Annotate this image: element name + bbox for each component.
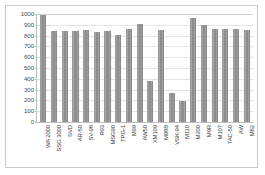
x-axis-label-slot: AR-50 [69,123,80,167]
bar-slot [188,14,199,122]
x-axis-label-slot: AW [230,123,241,167]
chart-frame: 10009008007006005004003002001000 WA 2000… [5,5,258,168]
bar [40,15,46,122]
x-axis-label-slot: M98B [155,123,166,167]
x-axis-label-slot: M110 [176,123,187,167]
x-axis-label-slot: TAC-50 [219,123,230,167]
bar [72,31,78,122]
bar-series [37,14,253,122]
bar-slot [70,14,81,122]
x-axis-label-slot: M82 [240,123,251,167]
x-axis-label-slot: M107 [208,123,219,167]
x-axis-label-slot: R93 [91,123,102,167]
bar [104,31,110,122]
bar-slot [134,14,145,122]
bar-slot [177,14,188,122]
x-axis-label-slot: MSG90 [101,123,112,167]
bar-slot [241,14,252,122]
x-axis-label-slot: WA 2000 [37,123,48,167]
bar-slot [92,14,103,122]
y-axis: 10009008007006005004003002001000 [8,14,34,122]
bar [222,29,228,122]
bar [51,31,57,122]
y-axis-tick-label: 0 [8,119,34,125]
x-axis-label-slot: XM109 [144,123,155,167]
bar [190,18,196,122]
bar [126,29,132,122]
bar [244,30,250,122]
x-axis-label-slot: AW50 [133,123,144,167]
y-axis-tick-label: 1000 [8,11,34,17]
y-axis-tick-label: 200 [8,97,34,103]
bar-slot [102,14,113,122]
y-axis-tick-label: 500 [8,65,34,71]
bar [158,30,164,122]
x-axis-label-slot: TPG-1 [112,123,123,167]
bar-slot [231,14,242,122]
bar-slot [166,14,177,122]
bar-slot [156,14,167,122]
x-axis-label-slot: VSK-94 [165,123,176,167]
bar-slot [113,14,124,122]
y-axis-tick-label: 800 [8,33,34,39]
bar [94,32,100,122]
bar [233,29,239,122]
bar [147,81,153,122]
bar-slot [199,14,210,122]
x-axis-tick-label: M82 [248,125,254,136]
bar-slot [38,14,49,122]
bar [115,35,121,122]
bar-slot [59,14,70,122]
x-axis-label-slot: SSG 3000 [48,123,59,167]
bar-slot [145,14,156,122]
bar [137,24,143,122]
chart-screenshot: 10009008007006005004003002001000 WA 2000… [0,0,265,175]
plot-wrapper: 10009008007006005004003002001000 WA 2000… [6,6,257,167]
x-axis-label-slot: M9R [198,123,209,167]
x-axis-label-slot: SV-98 [80,123,91,167]
bar-slot [81,14,92,122]
y-axis-tick-label: 700 [8,43,34,49]
bar-slot [49,14,60,122]
bar-slot [124,14,135,122]
x-axis-label-slot: M99 [123,123,134,167]
bar [62,31,68,122]
bar [201,25,207,122]
bar [83,30,89,122]
y-axis-tick-label: 100 [8,108,34,114]
plot-area [36,14,253,123]
x-axis-label-slot: M200 [187,123,198,167]
bar-slot [209,14,220,122]
bar [169,93,175,122]
y-axis-tick-label: 300 [8,87,34,93]
bar [212,29,218,122]
y-axis-tick-label: 600 [8,54,34,60]
y-axis-tick-label: 400 [8,76,34,82]
y-axis-tick-label: 900 [8,22,34,28]
bar-slot [220,14,231,122]
x-axis-label-slot: SVD [58,123,69,167]
bar [179,101,185,122]
x-axis: WA 2000SSG 3000SVDAR-50SV-98R93MSG90TPG-… [36,123,252,167]
